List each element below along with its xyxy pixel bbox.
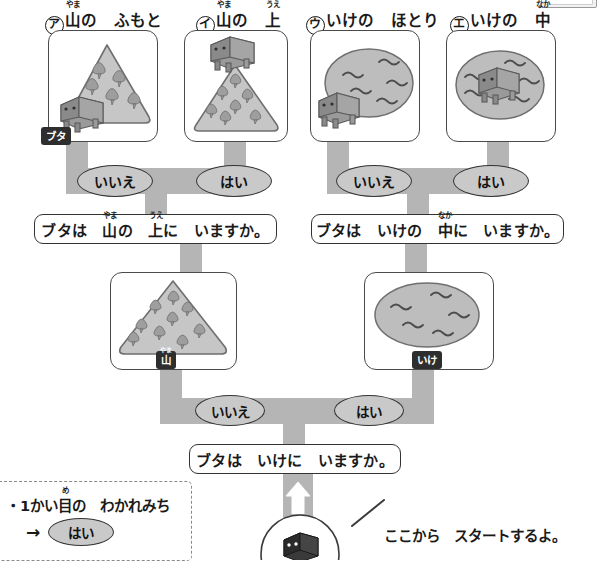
- mid-card-pond[interactable]: いけ: [364, 272, 494, 370]
- option-i-kanji1: やま山: [216, 8, 232, 30]
- mountain-foot-illustration: [49, 31, 156, 140]
- answer-label: はい: [356, 401, 382, 421]
- question-text: ブタは いけに いますか。: [196, 449, 394, 470]
- legend-answer-oval[interactable]: はい: [48, 518, 114, 546]
- road-bottom-down: [283, 398, 305, 444]
- pond-inside-illustration: [447, 31, 554, 140]
- q2-kanji-naka: なか中: [438, 219, 453, 240]
- mountain-top-illustration: [185, 31, 286, 140]
- start-pig-badge: [254, 514, 346, 560]
- answer-oval-no-pond[interactable]: いいえ: [336, 165, 412, 197]
- answer-label: いいえ: [94, 171, 136, 191]
- pond-name-tag: いけ: [412, 351, 442, 369]
- top-right-widget-inner: [545, 0, 593, 5]
- legend-kanji-me: め目: [58, 494, 72, 515]
- start-pointer-line: [348, 498, 388, 530]
- answer-label: はい: [477, 171, 505, 191]
- option-card-a[interactable]: ブタ: [48, 30, 158, 142]
- answer-label: はい: [220, 171, 248, 191]
- q1-kanji-ue: うえ上: [148, 219, 163, 240]
- road-q2-down: [405, 244, 427, 272]
- option-a-kanji: やま山: [65, 8, 81, 30]
- legend-bullet: ・: [6, 498, 20, 514]
- option-a-rest: の ふもと: [81, 12, 162, 30]
- answer-oval-yes-final[interactable]: はい: [334, 395, 404, 426]
- pond-side-illustration: [311, 31, 418, 140]
- pig-tag-a-label: ブタ: [46, 128, 66, 143]
- question-mountain-top[interactable]: ブタは やま山の うえ上に いますか。: [34, 214, 277, 244]
- answer-oval-no-mountain[interactable]: いいえ: [77, 165, 153, 197]
- option-card-u[interactable]: [310, 30, 420, 142]
- question-pond[interactable]: ブタは いけに いますか。: [189, 444, 401, 474]
- option-e-kanji: なか中: [535, 8, 551, 30]
- question-text: ブタは いけの なか中に いますか。: [316, 219, 559, 240]
- pig-figure: [479, 68, 519, 104]
- answer-label: はい: [68, 522, 94, 542]
- road-stem-i: [224, 140, 246, 168]
- answer-oval-yes-pond[interactable]: はい: [453, 165, 529, 197]
- answer-label: いいえ: [353, 171, 395, 191]
- option-card-e[interactable]: [446, 30, 556, 142]
- mountain-name-tag: やま山: [156, 351, 176, 369]
- answer-oval-yes-mountain[interactable]: はい: [196, 165, 272, 197]
- answer-label: いいえ: [211, 401, 250, 421]
- option-i-kanji2: うえ上: [265, 8, 281, 30]
- road-down-right: [407, 168, 429, 214]
- legend-arrow: →: [26, 522, 40, 542]
- pond-tag-label: いけ: [417, 352, 437, 367]
- pig-figure: [211, 37, 254, 72]
- option-u-text: いけの ほとり: [326, 12, 439, 30]
- pig-figure: [319, 93, 359, 128]
- legend-line-1: ・1かいめ目の わかれみち: [6, 494, 170, 515]
- road-stem-e: [487, 140, 509, 168]
- q1-kanji-yama: やま山: [102, 219, 117, 240]
- question-text: ブタは やま山の うえ上に いますか。: [41, 219, 269, 240]
- start-instruction-text: ここから スタートするよ。: [384, 524, 566, 545]
- mountain-tag-ruby: やま山: [161, 352, 171, 367]
- answer-oval-no-final[interactable]: いいえ: [195, 395, 265, 426]
- mid-card-mountain[interactable]: やま山: [110, 272, 237, 370]
- road-q1-down: [180, 244, 202, 272]
- option-e-text: いけの: [470, 12, 535, 30]
- question-pond-inside[interactable]: ブタは いけの なか中に いますか。: [311, 214, 564, 244]
- option-card-i[interactable]: [184, 30, 288, 142]
- pig-tag-a: ブタ: [41, 127, 71, 145]
- road-stem-u: [327, 140, 349, 168]
- start-arrow-icon: [283, 480, 313, 514]
